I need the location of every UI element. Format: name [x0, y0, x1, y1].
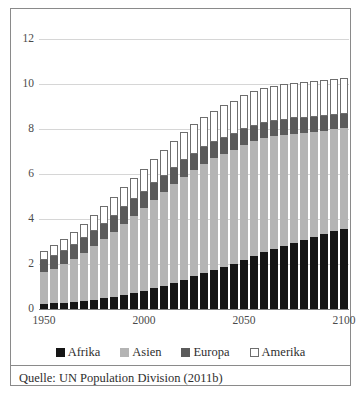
y-axis-tick-label: 12 [23, 33, 35, 45]
bar-segment-asien [60, 264, 68, 302]
bar-segment-afrika [330, 231, 338, 309]
bar-stack [130, 178, 138, 309]
bar-segment-amerika [270, 86, 278, 121]
bar-segment-asien [50, 269, 58, 304]
bar-segment-europa [60, 251, 68, 265]
legend-item-europa[interactable]: Europa [181, 345, 229, 360]
bar-segment-europa [290, 118, 298, 133]
y-axis-tick-label: 6 [28, 168, 34, 180]
x-axis-tick-label: 2100 [333, 315, 356, 327]
bar-segment-amerika [140, 169, 148, 192]
bar-segment-asien [150, 200, 158, 289]
bar-stack [40, 251, 48, 309]
legend-item-asien[interactable]: Asien [120, 345, 161, 360]
bar-segment-europa [210, 142, 218, 158]
bar-segment-europa [170, 168, 178, 185]
bar-segment-europa [200, 147, 208, 163]
bar-segment-europa [160, 176, 168, 193]
bar-segment-asien [240, 145, 248, 260]
bar-segment-asien [130, 216, 138, 293]
bar-segment-asien [90, 246, 98, 300]
bar-segment-amerika [230, 101, 238, 134]
figure-panel: 024681012 1950200020502100 AfrikaAsienEu… [10, 8, 351, 386]
bar-segment-amerika [190, 124, 198, 153]
y-axis-tick-label: 10 [23, 78, 35, 90]
bar-stack [70, 232, 78, 309]
bar-stack [230, 101, 238, 309]
bar-segment-afrika [210, 270, 218, 309]
bar-segment-afrika [110, 297, 118, 309]
bar-segment-amerika [160, 150, 168, 176]
bar-segment-amerika [300, 82, 308, 117]
bar-segment-amerika [250, 91, 258, 125]
y-axis-tick-label: 4 [28, 213, 34, 225]
bar-stack [160, 150, 168, 309]
legend-label: Afrika [68, 345, 101, 360]
bar-segment-asien [250, 141, 258, 256]
bar-segment-europa [140, 192, 148, 208]
bar-stack [150, 159, 158, 309]
bar-segment-afrika [260, 252, 268, 309]
bar-segment-afrika [90, 300, 98, 309]
legend-item-afrika[interactable]: Afrika [56, 345, 101, 360]
y-axis-tick-label: 8 [28, 123, 34, 135]
bar-segment-afrika [120, 295, 128, 309]
bar-segment-afrika [130, 293, 138, 309]
bar-segment-asien [280, 135, 288, 246]
bar-segment-europa [50, 256, 58, 269]
bar-segment-europa [310, 117, 318, 132]
bar-stack [110, 197, 118, 309]
bar-segment-europa [270, 121, 278, 136]
bar-segment-afrika [150, 288, 158, 309]
bar-segment-afrika [220, 267, 228, 309]
bar-stack [100, 206, 108, 309]
bar-segment-asien [140, 208, 148, 291]
bar-segment-europa [120, 207, 128, 223]
bar-segment-amerika [210, 111, 218, 143]
bar-segment-asien [190, 170, 198, 276]
bar-stack [340, 78, 348, 309]
bar-segment-europa [330, 115, 338, 130]
bar-series-group [39, 39, 349, 309]
legend-item-amerika[interactable]: Amerika [250, 345, 306, 360]
bar-segment-asien [300, 133, 308, 240]
bar-segment-asien [160, 192, 168, 286]
bar-segment-asien [230, 150, 238, 264]
bar-stack [250, 91, 258, 309]
bar-segment-europa [240, 129, 248, 145]
y-axis-tick-label: 2 [28, 258, 34, 270]
bar-segment-europa [150, 183, 158, 199]
bar-segment-europa [280, 120, 288, 135]
bar-stack [80, 224, 88, 309]
bar-stack [300, 82, 308, 309]
bar-segment-amerika [280, 84, 288, 119]
bar-segment-europa [260, 123, 268, 139]
bar-segment-amerika [240, 95, 248, 129]
bar-segment-amerika [100, 206, 108, 223]
bar-segment-amerika [130, 178, 138, 200]
bar-stack [180, 132, 188, 309]
x-axis-tick-label: 2050 [233, 315, 256, 327]
bar-segment-afrika [250, 256, 258, 309]
bar-segment-europa [340, 114, 348, 129]
bar-segment-afrika [70, 302, 78, 309]
bar-segment-afrika [230, 264, 238, 309]
bar-stack [310, 81, 318, 309]
bar-segment-afrika [180, 280, 188, 309]
bar-segment-asien [320, 131, 328, 234]
legend-swatch-icon [181, 348, 190, 357]
plot-area: 024681012 1950200020502100 [39, 39, 349, 309]
bar-segment-europa [100, 224, 108, 240]
bar-stack [120, 187, 128, 309]
bar-segment-amerika [170, 141, 178, 168]
bar-segment-asien [210, 158, 218, 270]
bar-segment-afrika [280, 246, 288, 309]
bar-stack [170, 141, 178, 310]
bar-stack [190, 124, 198, 309]
bar-segment-afrika [190, 276, 198, 309]
bar-segment-asien [220, 154, 228, 267]
bar-segment-afrika [100, 298, 108, 309]
bar-stack [210, 111, 218, 309]
legend-swatch-icon [120, 348, 129, 357]
bar-segment-amerika [310, 81, 318, 117]
